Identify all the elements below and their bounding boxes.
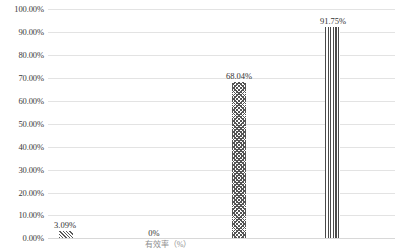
bar-3-value-label: 68.04% [215, 72, 263, 81]
ytick-label-50: 50.00% [0, 120, 44, 129]
plot-area: 3.09% 0% 68.04% 91.75% 有效率（%） [48, 0, 395, 247]
ytick-label-100: 100.00% [0, 5, 44, 14]
ytick-label-80: 80.00% [0, 51, 44, 60]
bar-1-fill [59, 231, 73, 238]
bar-1-value-label: 3.09% [41, 221, 89, 230]
ytick-label-30: 30.00% [0, 166, 44, 175]
x-axis-category-label: 有效率（%） [128, 240, 208, 249]
bar-4-fill [325, 27, 340, 238]
ytick-label-10: 10.00% [0, 211, 44, 220]
bar-4-value-label: 91.75% [309, 17, 357, 26]
ytick-label-20: 20.00% [0, 189, 44, 198]
bar-3-fill [232, 82, 246, 238]
bar-3[interactable] [232, 82, 246, 238]
ytick-label-90: 90.00% [0, 28, 44, 37]
bar-2-value-label: 0% [130, 229, 178, 238]
bar-1[interactable] [59, 231, 73, 238]
ytick-label-60: 60.00% [0, 97, 44, 106]
ytick-label-70: 70.00% [0, 74, 44, 83]
bar-4[interactable] [325, 27, 340, 238]
ytick-label-40: 40.00% [0, 143, 44, 152]
ytick-label-0: 0.00% [0, 234, 44, 243]
